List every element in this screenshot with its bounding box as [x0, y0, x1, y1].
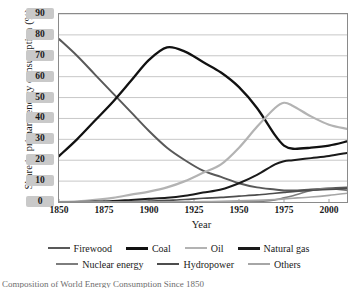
legend-item-coal[interactable]: Coal — [126, 243, 171, 254]
chart-legend: FirewoodCoalOilNatural gas Nuclear energ… — [0, 240, 357, 272]
x-axis-title: Year — [0, 219, 357, 230]
legend-label: Others — [274, 259, 301, 270]
y-tick-60: 60 — [26, 71, 54, 82]
legend-item-others[interactable]: Others — [248, 259, 301, 270]
y-tick-30: 30 — [26, 133, 54, 144]
series-line-oil — [59, 103, 347, 202]
legend-swatch-icon — [238, 247, 260, 250]
y-tick-20: 20 — [26, 154, 54, 165]
legend-label: Oil — [211, 243, 224, 254]
legend-swatch-icon — [248, 263, 270, 265]
x-tick-1850: 1850 — [50, 205, 69, 215]
x-tick-1950: 1950 — [230, 205, 249, 215]
y-tick-90: 90 — [26, 8, 54, 19]
legend-swatch-icon — [48, 247, 70, 249]
x-tick-1875: 1875 — [95, 205, 114, 215]
legend-swatch-icon — [126, 247, 148, 250]
legend-item-natural-gas[interactable]: Natural gas — [238, 243, 310, 254]
x-axis-tick-labels: 1850187519001925195019752000 — [0, 205, 357, 219]
legend-item-nuclear-energy[interactable]: Nuclear energy — [56, 259, 143, 270]
y-tick-10: 10 — [26, 175, 54, 186]
legend-row-secondary: Nuclear energyHydropowerOthers — [0, 256, 357, 272]
legend-item-hydropower[interactable]: Hydropower — [157, 259, 234, 270]
y-tick-70: 70 — [26, 50, 54, 61]
legend-label: Hydropower — [183, 259, 234, 270]
x-tick-2000: 2000 — [320, 205, 339, 215]
legend-swatch-icon — [157, 263, 179, 265]
x-tick-1975: 1975 — [275, 205, 294, 215]
y-tick-80: 80 — [26, 29, 54, 40]
legend-row-primary: FirewoodCoalOilNatural gas — [0, 240, 357, 256]
chart-figure: Share in primary energy consumption (%) … — [0, 0, 357, 288]
x-tick-1900: 1900 — [140, 205, 159, 215]
chart-svg — [59, 14, 347, 202]
legend-swatch-icon — [56, 263, 78, 265]
legend-label: Firewood — [74, 243, 112, 254]
y-tick-50: 50 — [26, 92, 54, 103]
legend-label: Nuclear energy — [82, 259, 143, 270]
figure-caption: Composition of World Energy Consumption … — [2, 279, 357, 288]
y-tick-40: 40 — [26, 112, 54, 123]
legend-label: Natural gas — [264, 243, 310, 254]
legend-item-firewood[interactable]: Firewood — [48, 243, 112, 254]
legend-label: Coal — [152, 243, 171, 254]
plot-area — [58, 13, 348, 203]
legend-swatch-icon — [185, 247, 207, 249]
legend-item-oil[interactable]: Oil — [185, 243, 224, 254]
x-tick-1925: 1925 — [185, 205, 204, 215]
